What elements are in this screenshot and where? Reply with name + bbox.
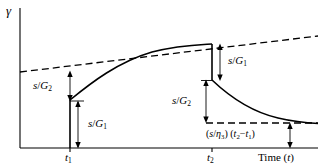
creep-recovery-figure: γ s/G2 s/G1 s/G1 s/G2 (s/η3) (t2−t1) t1 … bbox=[0, 0, 321, 168]
measure-right-sG2 bbox=[201, 80, 213, 124]
annotation-left-s-over-g1: s/G1 bbox=[88, 118, 107, 131]
y-axis-symbol: γ bbox=[6, 4, 11, 17]
tick-label-t1: t1 bbox=[65, 152, 72, 165]
tick-label-t2: t2 bbox=[207, 152, 214, 165]
measure-right-sG1 bbox=[217, 44, 222, 82]
annotation-left-s-over-g2: s/G2 bbox=[33, 80, 52, 93]
viscous-asymptote-line bbox=[20, 36, 318, 72]
annotation-right-s-over-g1: s/G1 bbox=[228, 55, 247, 68]
measure-left-sG2 bbox=[67, 71, 72, 102]
annotation-permanent-flow: (s/η3) (t2−t1) bbox=[206, 129, 255, 141]
measure-permanent-flow bbox=[287, 123, 292, 149]
measure-left-sG1 bbox=[70, 101, 84, 149]
recovery-curve bbox=[212, 80, 318, 124]
x-axis-label: Time (t) bbox=[258, 152, 294, 163]
annotation-right-s-over-g2: s/G2 bbox=[172, 95, 191, 108]
creep-curve bbox=[70, 44, 212, 100]
